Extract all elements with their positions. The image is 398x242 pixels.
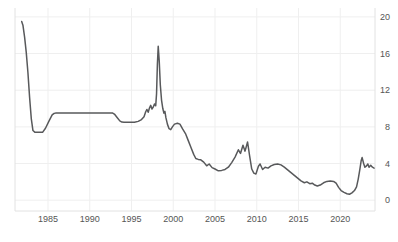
y-tick-label: 16 — [380, 49, 390, 59]
x-gridlines — [48, 8, 340, 211]
y-tick-label: 12 — [380, 85, 390, 95]
x-axis-labels: 19851990199520002005201020152020 — [38, 214, 350, 224]
y-axis-labels: 048121620 — [380, 12, 390, 205]
x-tick-label: 2010 — [247, 214, 267, 224]
series-path — [22, 21, 374, 194]
series-line — [22, 21, 374, 194]
x-tick-label: 1985 — [38, 214, 58, 224]
y-tick-label: 8 — [385, 122, 390, 132]
x-tick-label: 1995 — [121, 214, 141, 224]
chart-container: 19851990199520002005201020152020 0481216… — [0, 0, 398, 242]
line-chart: 19851990199520002005201020152020 0481216… — [0, 0, 398, 242]
x-tick-label: 1990 — [80, 214, 100, 224]
y-tick-label: 4 — [385, 159, 390, 169]
x-tick-label: 2005 — [205, 214, 225, 224]
plot-border — [15, 8, 375, 211]
y-tick-label: 20 — [380, 12, 390, 22]
y-tick-label: 0 — [385, 195, 390, 205]
x-tick-label: 2015 — [288, 214, 308, 224]
y-gridlines — [15, 17, 375, 200]
x-tick-label: 2020 — [330, 214, 350, 224]
x-tick-label: 2000 — [163, 214, 183, 224]
